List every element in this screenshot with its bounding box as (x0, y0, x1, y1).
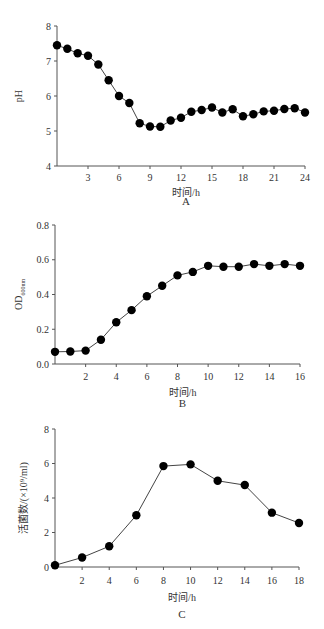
y-tick-label: 6 (44, 458, 49, 469)
data-point (112, 318, 120, 326)
x-tick-label: 12 (234, 371, 244, 382)
chart-c-plot: 0246824681012141618时间/h活菌数/(×10⁹/ml)C (0, 410, 324, 629)
data-point (94, 60, 102, 68)
data-point (290, 104, 298, 112)
data-point (63, 45, 71, 53)
data-point (173, 271, 181, 279)
x-tick-label: 6 (134, 575, 139, 586)
data-point (53, 41, 61, 49)
y-tick-label: 6 (46, 91, 51, 102)
x-tick-label: 4 (114, 371, 119, 382)
y-tick-label: 4 (46, 161, 51, 172)
x-tick-label: 6 (144, 371, 149, 382)
data-point (78, 553, 86, 561)
data-point (84, 52, 92, 60)
data-point (187, 108, 195, 116)
y-tick-label: 2 (44, 527, 49, 538)
y-tick-label: 0 (44, 562, 49, 573)
x-tick-label: 15 (207, 172, 217, 183)
x-tick-label: 14 (264, 371, 274, 382)
chart-c-viable-count: 0246824681012141618时间/h活菌数/(×10⁹/ml)C (0, 410, 324, 629)
series-line (55, 464, 299, 565)
data-point (235, 263, 243, 271)
x-tick-label: 10 (203, 371, 213, 382)
y-tick-label: 0.4 (37, 289, 50, 300)
x-tick-label: 10 (186, 575, 196, 586)
y-tick-label: 4 (44, 493, 49, 504)
x-tick-label: 2 (83, 371, 88, 382)
data-series (53, 41, 309, 131)
x-tick-label: 9 (148, 172, 153, 183)
data-point (132, 511, 140, 519)
data-point (135, 119, 143, 127)
x-tick-label: 18 (294, 575, 304, 586)
data-point (280, 260, 288, 268)
x-tick-label: 8 (175, 371, 180, 382)
data-point (125, 99, 133, 107)
y-tick-label: 0.6 (37, 254, 50, 265)
y-axis-label: OD600nm (13, 279, 26, 310)
data-point (301, 108, 309, 116)
x-tick-label: 2 (80, 575, 85, 586)
data-point (219, 263, 227, 271)
x-axis-label: 时间/h (168, 591, 196, 603)
data-point (166, 116, 174, 124)
data-point (295, 519, 303, 527)
x-tick-label: 3 (86, 172, 91, 183)
y-axis-label: pH (13, 90, 24, 102)
data-point (146, 122, 154, 130)
data-point (204, 262, 212, 270)
x-tick-label: 14 (240, 575, 250, 586)
data-series (51, 460, 303, 569)
data-point (115, 92, 123, 100)
data-point (239, 112, 247, 120)
y-tick-label: 0.0 (37, 359, 50, 370)
data-point (218, 108, 226, 116)
y-tick-label: 0.2 (37, 324, 50, 335)
data-point (241, 481, 249, 489)
data-point (208, 103, 216, 111)
data-point (197, 106, 205, 114)
chart-caption: B (179, 397, 186, 409)
y-axis-label: 活菌数/(×10⁹/ml) (17, 462, 30, 534)
data-point (156, 123, 164, 131)
data-series (51, 260, 304, 356)
axes: 456783691215182124 (46, 21, 310, 184)
data-point (265, 262, 273, 270)
chart-caption: A (182, 195, 190, 207)
y-tick-label: 8 (46, 21, 51, 32)
axes: 0246824681012141618 (44, 424, 304, 587)
data-point (66, 347, 74, 355)
data-point (186, 460, 194, 468)
data-point (73, 49, 81, 57)
data-point (249, 110, 257, 118)
chart-a-plot: 456783691215182124时间/hpHA (0, 0, 324, 210)
x-tick-label: 12 (176, 172, 186, 183)
axes: 0.00.20.40.60.8246810121416 (37, 220, 306, 383)
x-tick-label: 18 (238, 172, 248, 183)
chart-caption: C (178, 608, 185, 620)
x-tick-label: 24 (300, 172, 310, 183)
chart-a-ph: 456783691215182124时间/hpHA (0, 0, 324, 210)
x-tick-label: 16 (295, 371, 305, 382)
data-point (189, 268, 197, 276)
y-tick-label: 7 (46, 56, 51, 67)
data-point (228, 105, 236, 113)
data-point (51, 561, 59, 569)
data-point (177, 114, 185, 122)
x-tick-label: 6 (117, 172, 122, 183)
data-point (105, 542, 113, 550)
chart-b-plot: 0.00.20.40.60.8246810121416时间/hOD600nmB (0, 210, 324, 410)
y-axis-label-subscript: 600nm (20, 279, 26, 296)
data-point (268, 508, 276, 516)
data-point (296, 262, 304, 270)
data-point (51, 348, 59, 356)
y-tick-label: 5 (46, 126, 51, 137)
data-point (280, 105, 288, 113)
data-point (143, 292, 151, 300)
data-point (213, 477, 221, 485)
data-point (81, 346, 89, 354)
data-point (159, 462, 167, 470)
x-tick-label: 8 (161, 575, 166, 586)
x-tick-label: 21 (269, 172, 279, 183)
